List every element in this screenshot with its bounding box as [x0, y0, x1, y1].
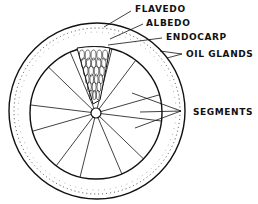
label-albedo: ALBEDO — [146, 18, 190, 28]
diagram-canvas: FLAVEDO ALBEDO ENDOCARP OIL GLANDS SEGME… — [0, 0, 258, 204]
leader-albedo — [110, 24, 143, 39]
segment-divider — [80, 118, 95, 177]
label-oil-glands: OIL GLANDS — [186, 49, 253, 59]
juice-vesicles-wedge — [77, 47, 110, 105]
fruit-core — [91, 108, 101, 118]
label-endocarp: ENDOCARP — [166, 32, 227, 42]
label-flavedo: FLAVEDO — [135, 4, 186, 14]
leader-flavedo — [104, 11, 131, 27]
segment-divider — [56, 117, 93, 166]
leader-segments-2 — [140, 111, 181, 112]
leader-oil-glands-2 — [167, 54, 182, 58]
segment-divider — [101, 95, 160, 112]
segment-divider — [33, 114, 92, 131]
leader-segments-3 — [135, 111, 181, 128]
label-segments: SEGMENTS — [193, 107, 253, 117]
segment-divider — [30, 105, 91, 112]
segment-divider — [101, 114, 162, 121]
citrus-diagram: FLAVEDO ALBEDO ENDOCARP OIL GLANDS SEGME… — [0, 0, 258, 204]
